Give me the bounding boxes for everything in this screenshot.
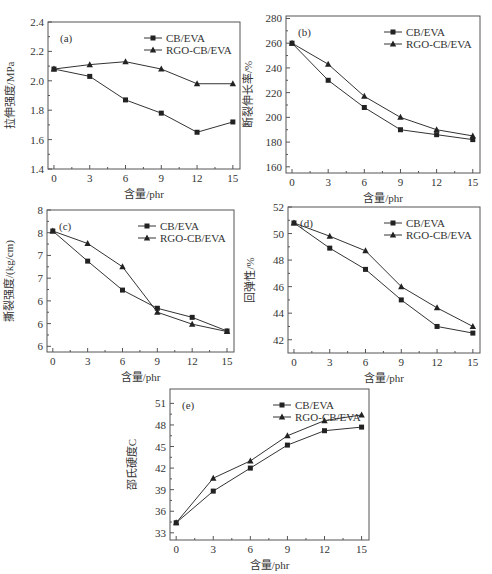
x-tick-label: 9 bbox=[398, 176, 404, 188]
y-axis-label: 拉伸强度/MPa bbox=[3, 61, 16, 129]
legend-label: RGO-CB/EVA bbox=[406, 229, 472, 241]
y-tick-label: 52 bbox=[273, 201, 284, 213]
y-tick-label: 220 bbox=[266, 87, 283, 99]
y-tick-label: 1.8 bbox=[30, 104, 44, 116]
y-tick-label: 200 bbox=[266, 111, 283, 123]
x-tick-label: 0 bbox=[50, 355, 56, 367]
series-line bbox=[176, 415, 361, 523]
triangle-marker bbox=[247, 457, 253, 463]
triangle-marker bbox=[325, 61, 331, 67]
y-tick-label: 6 bbox=[38, 318, 44, 330]
square-marker bbox=[399, 297, 404, 302]
y-tick-label: 8 bbox=[38, 227, 44, 239]
x-tick-label: 6 bbox=[123, 172, 129, 184]
series-line bbox=[54, 69, 233, 132]
x-tick-label: 6 bbox=[363, 356, 369, 368]
y-tick-label: 240 bbox=[266, 62, 283, 74]
y-tick-label: 50 bbox=[273, 228, 285, 240]
square-marker bbox=[248, 466, 253, 471]
triangle-marker bbox=[119, 263, 125, 269]
square-marker bbox=[327, 246, 332, 251]
y-tick-label: 6 bbox=[38, 340, 44, 352]
x-tick-label: 6 bbox=[362, 176, 368, 188]
x-tick-label: 12 bbox=[432, 356, 443, 368]
x-tick-label: 3 bbox=[325, 176, 331, 188]
y-tick-label: 44 bbox=[273, 307, 285, 319]
chart-d: 03691215424446485052含量/phr回弹性/%(d)CB/EVA… bbox=[242, 199, 488, 387]
square-marker bbox=[190, 315, 195, 320]
legend-label: RGO-CB/EVA bbox=[295, 411, 361, 423]
y-tick-label: 51 bbox=[155, 397, 166, 409]
panel-label: (a) bbox=[60, 32, 73, 45]
triangle-marker bbox=[397, 114, 403, 120]
x-tick-label: 12 bbox=[192, 172, 203, 184]
x-axis-label: 含量/phr bbox=[124, 187, 164, 200]
y-tick-label: 48 bbox=[155, 419, 167, 431]
series-line bbox=[54, 62, 233, 84]
x-tick-label: 0 bbox=[291, 356, 297, 368]
legend-square-icon bbox=[145, 224, 150, 229]
square-marker bbox=[85, 259, 90, 264]
square-marker bbox=[87, 74, 92, 79]
legend-square-icon bbox=[280, 403, 285, 408]
x-tick-label: 3 bbox=[87, 172, 93, 184]
y-tick-label: 1.4 bbox=[30, 163, 44, 175]
x-tick-label: 3 bbox=[211, 543, 217, 555]
y-tick-label: 160 bbox=[266, 161, 283, 173]
y-tick-label: 180 bbox=[266, 136, 283, 148]
legend-label: RGO-CB/EVA bbox=[160, 232, 226, 244]
y-axis-label: 回弹性/% bbox=[243, 257, 256, 302]
y-tick-label: 260 bbox=[266, 37, 283, 49]
square-marker bbox=[362, 105, 367, 110]
y-tick-label: 2.2 bbox=[30, 45, 44, 57]
y-axis-label: 撕裂强度/(kg/cm) bbox=[2, 240, 16, 322]
legend-label: CB/EVA bbox=[406, 26, 445, 38]
square-marker bbox=[435, 324, 440, 329]
square-marker bbox=[470, 331, 475, 336]
x-tick-label: 0 bbox=[173, 543, 179, 555]
series-line bbox=[292, 43, 473, 139]
x-tick-label: 12 bbox=[187, 355, 198, 367]
square-marker bbox=[195, 130, 200, 135]
legend-label: RGO-CB/EVA bbox=[166, 44, 232, 56]
square-marker bbox=[326, 78, 331, 83]
square-marker bbox=[398, 127, 403, 132]
square-marker bbox=[434, 132, 439, 137]
x-tick-label: 15 bbox=[467, 176, 479, 188]
y-axis-label: 断裂伸长率/% bbox=[241, 61, 254, 128]
chart-b: 03691215160180200220240260280含量/phr断裂伸长率… bbox=[240, 8, 488, 207]
y-tick-label: 42 bbox=[155, 462, 166, 474]
x-tick-label: 6 bbox=[248, 543, 254, 555]
legend-square-icon bbox=[391, 30, 396, 35]
x-tick-label: 15 bbox=[227, 172, 239, 184]
panel-label: (c) bbox=[59, 220, 72, 233]
y-tick-label: 39 bbox=[155, 484, 167, 496]
series-line bbox=[292, 43, 473, 136]
chart-c: 036912156667788含量/phr撕裂强度/(kg/cm)(c)CB/E… bbox=[1, 202, 242, 386]
triangle-marker bbox=[122, 58, 128, 64]
x-tick-label: 9 bbox=[399, 356, 405, 368]
chart-e: 0369121533363942454851含量/phr邵氏硬度C(e)CB/E… bbox=[124, 381, 377, 574]
y-tick-label: 2.0 bbox=[30, 75, 44, 87]
x-tick-label: 3 bbox=[327, 356, 333, 368]
y-tick-label: 280 bbox=[266, 12, 283, 24]
y-tick-label: 7 bbox=[38, 272, 44, 284]
y-tick-label: 36 bbox=[155, 505, 167, 517]
x-tick-label: 0 bbox=[289, 176, 295, 188]
x-tick-label: 3 bbox=[85, 355, 91, 367]
square-marker bbox=[230, 119, 235, 124]
triangle-marker bbox=[470, 323, 476, 329]
legend-label: CB/EVA bbox=[166, 32, 205, 44]
panel-label: (b) bbox=[298, 26, 311, 39]
legend-label: CB/EVA bbox=[406, 217, 445, 229]
legend-square-icon bbox=[151, 36, 156, 41]
x-tick-label: 0 bbox=[51, 172, 57, 184]
series-line bbox=[53, 231, 227, 332]
legend-label: RGO-CB/EVA bbox=[406, 38, 472, 50]
x-tick-label: 9 bbox=[155, 355, 161, 367]
x-tick-label: 15 bbox=[356, 543, 368, 555]
series-line bbox=[53, 231, 227, 331]
x-tick-label: 6 bbox=[120, 355, 126, 367]
square-marker bbox=[159, 111, 164, 116]
x-tick-label: 12 bbox=[319, 543, 330, 555]
